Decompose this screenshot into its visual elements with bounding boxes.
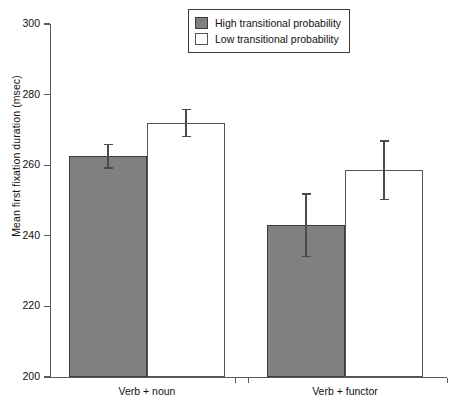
bar-high-1 bbox=[69, 156, 147, 377]
y-axis-line bbox=[50, 24, 51, 378]
error-bar-cap-top bbox=[182, 109, 191, 110]
bar-low-1 bbox=[147, 123, 225, 377]
bar-low-2 bbox=[345, 170, 423, 377]
y-tick-300 bbox=[44, 23, 50, 24]
error-bar-cap-bottom bbox=[104, 167, 113, 168]
x-axis-tick-1 bbox=[235, 378, 236, 383]
error-bar-high-1 bbox=[102, 144, 114, 169]
error-bar-high-2 bbox=[300, 193, 312, 257]
filled-gray-swatch-icon bbox=[195, 17, 208, 29]
category-label-2: Verb + functor bbox=[275, 385, 415, 397]
error-bar-cap-bottom bbox=[302, 256, 311, 257]
y-tick-label-300: 300 bbox=[2, 18, 40, 29]
error-bar-cap-top bbox=[104, 144, 113, 145]
y-tick-220 bbox=[44, 306, 50, 307]
legend: High transitional probability Low transi… bbox=[188, 9, 350, 53]
x-axis-tick-2 bbox=[248, 378, 249, 383]
error-bar-cap-top bbox=[302, 193, 311, 194]
error-bar-stem bbox=[383, 140, 384, 200]
y-tick-200 bbox=[44, 376, 50, 377]
category-label-1: Verb + noun bbox=[77, 385, 217, 397]
error-bar-cap-bottom bbox=[380, 199, 389, 200]
y-tick-240 bbox=[44, 235, 50, 236]
y-tick-label-220: 220 bbox=[2, 300, 40, 311]
y-axis-title: Mean first fixation duration (msec) bbox=[10, 56, 22, 256]
y-tick-label-200: 200 bbox=[2, 371, 40, 382]
legend-item-low: Low transitional probability bbox=[195, 31, 341, 47]
y-tick-260 bbox=[44, 165, 50, 166]
error-bar-stem bbox=[107, 144, 108, 169]
legend-item-high: High transitional probability bbox=[195, 15, 341, 31]
legend-label-low: Low transitional probability bbox=[215, 34, 339, 45]
error-bar-low-1 bbox=[180, 109, 192, 137]
bar-chart-figure: 200220240260280300 Mean first fixation d… bbox=[0, 0, 457, 406]
error-bar-stem bbox=[305, 193, 306, 257]
error-bar-cap-top bbox=[380, 140, 389, 141]
error-bar-cap-bottom bbox=[182, 136, 191, 137]
y-tick-280 bbox=[44, 94, 50, 95]
hollow-white-swatch-icon bbox=[195, 33, 208, 45]
legend-label-high: High transitional probability bbox=[215, 18, 341, 29]
error-bar-stem bbox=[185, 109, 186, 137]
error-bar-low-2 bbox=[378, 140, 390, 200]
x-axis-tick-3 bbox=[447, 378, 448, 383]
